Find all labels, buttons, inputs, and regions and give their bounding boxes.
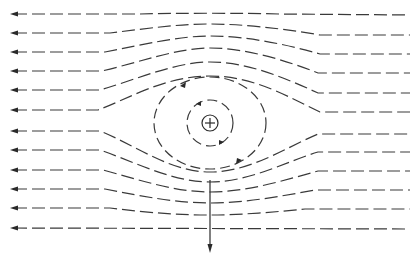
streamline-bottom-5 bbox=[14, 208, 410, 215]
force-arrow bbox=[208, 180, 213, 253]
vortex bbox=[154, 77, 266, 169]
streamline-top-3 bbox=[14, 36, 410, 54]
arrowhead-left-icon bbox=[10, 12, 18, 17]
streamline-bottom-2 bbox=[14, 150, 410, 182]
upper-streamlines bbox=[14, 13, 410, 112]
arrowhead-left-icon bbox=[10, 206, 18, 211]
vortex-in-uniform-flow-diagram bbox=[0, 0, 418, 257]
streamline-top-1 bbox=[14, 13, 410, 15]
streamline-bottom-6 bbox=[14, 228, 410, 229]
arrowhead-left-icon bbox=[10, 129, 18, 134]
arrowhead-left-icon bbox=[10, 148, 18, 153]
arrowhead-left-icon bbox=[10, 168, 18, 173]
arrow-down-icon bbox=[208, 244, 213, 253]
streamline-bottom-4 bbox=[14, 189, 410, 203]
arrowhead-left-icon bbox=[10, 31, 18, 36]
arrowhead-left-icon bbox=[10, 108, 18, 113]
arrowhead-left-icon bbox=[10, 50, 18, 55]
arrowhead-left-icon bbox=[10, 69, 18, 74]
arrowhead-left-icon bbox=[10, 226, 18, 231]
streamline-top-2 bbox=[14, 24, 410, 35]
arrowhead-left-icon bbox=[10, 88, 18, 93]
arrowhead-left-icon bbox=[10, 187, 18, 192]
flow-arrowheads bbox=[10, 12, 18, 231]
streamline-top-6 bbox=[14, 76, 410, 112]
